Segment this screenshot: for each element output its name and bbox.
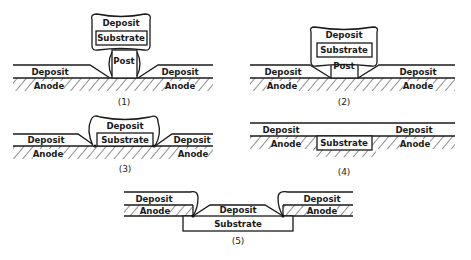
right-deposit-label: Deposit	[173, 135, 210, 145]
right-anode-label: Anode	[403, 81, 434, 91]
post-label: Post	[113, 56, 134, 66]
left-deposit-label: Deposit	[31, 67, 68, 77]
right-anode-label: Anode	[178, 149, 209, 159]
panel-caption: (3)	[119, 164, 132, 174]
panel-4: Substrate Deposit Deposit Anode Anode (4…	[250, 123, 455, 177]
cap-label: Deposit	[106, 121, 143, 131]
cap-label: Deposit	[102, 18, 139, 28]
right-deposit-label: Deposit	[303, 194, 340, 204]
panel-caption: (1)	[118, 97, 131, 107]
substrate-label: Substrate	[101, 135, 149, 145]
left-anode-label: Anode	[34, 81, 65, 91]
right-deposit-label: Deposit	[399, 67, 436, 77]
panel-caption: (5)	[232, 236, 245, 246]
substrate-label: Substrate	[320, 138, 368, 148]
contact-point	[281, 214, 284, 217]
cap-label: Deposit	[325, 30, 362, 40]
right-anode-label: Anode	[165, 81, 196, 91]
left-deposit-label: Deposit	[262, 125, 299, 135]
right-anode-label: Anode	[400, 139, 431, 149]
substrate-label: Substrate	[214, 219, 262, 229]
contact-point	[191, 214, 194, 217]
substrate-label: Substrate	[97, 33, 145, 43]
panel-1: Deposit Substrate Post Deposit Deposit A…	[13, 14, 213, 107]
left-deposit-label: Deposit	[135, 194, 172, 204]
electrodeposition-diagram: Deposit Substrate Post Deposit Deposit A…	[0, 0, 471, 260]
contact-point	[152, 144, 155, 147]
panel-5: Deposit Substrate Deposit Deposit Anode …	[124, 192, 353, 246]
panel-3: Deposit Substrate Deposit Deposit Anode …	[13, 116, 213, 174]
substrate-label: Substrate	[320, 45, 368, 55]
left-anode-label: Anode	[140, 206, 171, 216]
center-deposit-label: Deposit	[219, 205, 256, 215]
right-anode-label: Anode	[307, 206, 338, 216]
left-deposit-label: Deposit	[264, 67, 301, 77]
panel-caption: (4)	[338, 167, 351, 177]
post-label: Post	[333, 61, 354, 71]
panel-caption: (2)	[338, 97, 351, 107]
left-anode-label: Anode	[33, 149, 64, 159]
right-deposit-label: Deposit	[395, 125, 432, 135]
left-deposit-label: Deposit	[27, 135, 64, 145]
left-anode-label: Anode	[271, 139, 302, 149]
panel-2: Deposit Substrate Post Deposit Deposit A…	[250, 27, 455, 107]
contact-point	[93, 144, 96, 147]
left-anode-label: Anode	[267, 81, 298, 91]
right-deposit-label: Deposit	[161, 67, 198, 77]
